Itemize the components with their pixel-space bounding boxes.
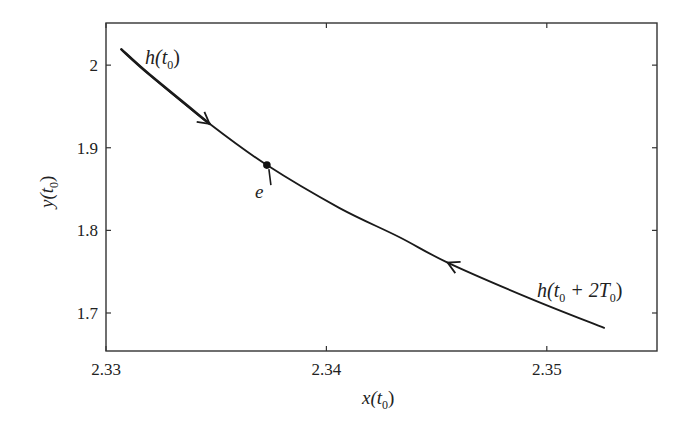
x-axis-label: x(t0) (361, 387, 394, 412)
equilibrium-point-e (263, 161, 271, 169)
x-axis-main: x(t (361, 387, 383, 409)
h-end-label: h(t0 + 2T0) (537, 279, 623, 305)
y-axis-tail: ) (36, 176, 58, 182)
axis-tick-labels: 2.332.342.3521.91.81.7 (77, 56, 562, 379)
y-tick-label: 2 (90, 56, 99, 75)
point-e-label: e (255, 181, 263, 202)
point-e-leader-line (269, 169, 271, 185)
y-tick-label: 1.9 (77, 139, 98, 158)
h-end-mid: + 2T (565, 279, 611, 301)
phase-plot: 2.332.342.3521.91.81.7 e h(t0) h(t0 + 2T… (0, 0, 688, 427)
h-start-tail: ) (173, 46, 180, 69)
x-tick-label: 2.33 (91, 360, 121, 379)
y-tick-label: 1.8 (77, 221, 98, 240)
plot-frame (106, 23, 657, 351)
y-tick-label: 1.7 (77, 304, 99, 323)
h-end-tail: ) (616, 279, 623, 302)
h-end-main: h(t (537, 279, 560, 302)
trajectory-curve (121, 49, 604, 328)
h-start-main: h(t (145, 46, 168, 69)
axis-ticks (106, 23, 657, 351)
x-tick-label: 2.34 (312, 360, 342, 379)
h-start-label: h(t0) (145, 46, 180, 72)
x-axis-tail: ) (388, 387, 394, 409)
x-tick-label: 2.35 (532, 360, 562, 379)
y-axis-main: y(t (36, 187, 58, 210)
y-axis-label: y(t0) (36, 176, 61, 210)
